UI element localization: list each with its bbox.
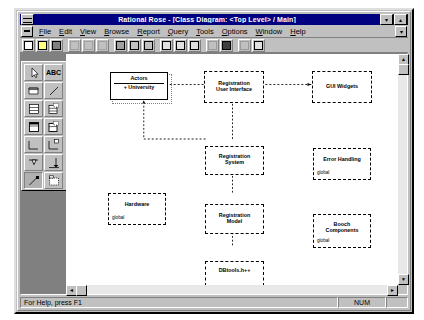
aggregation-diamond-icon	[27, 156, 42, 170]
zoom-in-button[interactable]	[206, 39, 219, 52]
undo-button[interactable]	[238, 39, 251, 52]
new-model-button[interactable]	[22, 39, 35, 52]
minimize-button[interactable]: ▾	[380, 14, 393, 25]
floppy-disk-icon	[52, 41, 61, 50]
minimize-icon: ▾	[381, 15, 392, 24]
menu-browse-label: rowse	[109, 27, 129, 36]
association-class-icon	[47, 138, 62, 152]
status-num-indicator: NUM	[338, 297, 386, 308]
text-tool[interactable]: ABC	[44, 64, 63, 81]
menu-query[interactable]: Query	[164, 27, 192, 37]
redo-button[interactable]	[252, 39, 265, 52]
menu-edit[interactable]: Edit	[55, 27, 76, 37]
toolbox-grid: ABC	[24, 64, 63, 189]
gui-widgets-package[interactable]: GUI Widgets	[312, 71, 372, 103]
application-window: Rational Rose - [Class Diagram: <Top Lev…	[14, 8, 414, 314]
fit-in-window-button[interactable]	[220, 39, 233, 52]
menu-query-label: uery	[174, 27, 189, 36]
save-model-button[interactable]	[50, 39, 63, 52]
horizontal-scrollbar[interactable]: ◄ ►	[66, 285, 398, 294]
mdi-system-menu-button[interactable]	[21, 26, 33, 37]
menu-help[interactable]: Help	[286, 27, 309, 37]
cut-button[interactable]	[68, 39, 81, 52]
fit-window-icon	[222, 41, 231, 50]
vscroll-thumb[interactable]	[398, 64, 409, 75]
scroll-right-button[interactable]: ►	[387, 285, 398, 296]
dbtools-package[interactable]: DBtools.h++	[205, 261, 264, 286]
connector-system-to-actors	[144, 100, 206, 139]
paste-button[interactable]	[96, 39, 109, 52]
class-tool[interactable]	[24, 100, 43, 117]
browse-button[interactable]	[142, 39, 155, 52]
title-bar: Rational Rose - [Class Diagram: <Top Lev…	[20, 14, 408, 25]
note-tool[interactable]	[24, 82, 43, 99]
menu-report[interactable]: Report	[133, 27, 164, 37]
association-tool[interactable]	[24, 136, 43, 153]
menu-window[interactable]: Window	[252, 27, 287, 37]
menu-browse[interactable]: Browse	[100, 27, 133, 37]
hardware-global: global	[112, 215, 124, 220]
use-case-diagram-icon	[176, 41, 185, 50]
state-diagram-button[interactable]	[188, 39, 201, 52]
scroll-down-button[interactable]: ▼	[398, 274, 409, 285]
open-model-button[interactable]	[36, 39, 49, 52]
vscroll-track[interactable]	[398, 63, 407, 276]
model-title-line2: Model	[206, 218, 263, 224]
registration-model-package[interactable]: Registration Model	[205, 204, 264, 234]
query-button[interactable]	[128, 39, 141, 52]
association-line-icon	[27, 138, 42, 152]
application-window-inner: Rational Rose - [Class Diagram: <Top Lev…	[17, 11, 411, 311]
anchor-line-icon	[47, 84, 62, 98]
menu-view-label: iew	[85, 27, 96, 36]
inheritance-tool[interactable]	[44, 154, 63, 171]
error-handling-package[interactable]: Error Handling global	[313, 148, 371, 180]
status-extra-indicator	[386, 297, 408, 308]
system-menu-button[interactable]	[21, 14, 34, 25]
diagram-canvas[interactable]: Actors + University Registration User In…	[66, 54, 398, 285]
copy-icon	[84, 41, 93, 50]
maximize-button[interactable]: ▴	[394, 14, 407, 25]
menu-options[interactable]: Options	[218, 27, 252, 37]
hscroll-track[interactable]	[75, 285, 389, 294]
hardware-package[interactable]: Hardware global	[108, 193, 166, 225]
package-tool[interactable]	[44, 172, 63, 189]
hscroll-thumb[interactable]	[76, 285, 87, 296]
error-handling-global: global	[317, 170, 329, 175]
booch-title-line2: Components	[314, 227, 370, 233]
hardware-title: Hardware	[109, 201, 165, 207]
diagram-toolbox: ABC	[21, 61, 67, 191]
browse-icon	[144, 41, 153, 50]
class-box-icon	[27, 102, 42, 116]
aggregation-tool[interactable]	[24, 154, 43, 171]
vertical-scrollbar[interactable]: ▲ ▼	[398, 54, 407, 285]
menu-view[interactable]: View	[76, 27, 100, 37]
menu-tools-label: ools	[200, 27, 214, 36]
undo-icon	[240, 41, 249, 50]
association-class-tool[interactable]	[44, 136, 63, 153]
menu-report-label: eport	[143, 27, 160, 36]
class-diagram-button[interactable]	[160, 39, 173, 52]
parameterized-class-icon	[47, 102, 62, 116]
menu-file[interactable]: File	[35, 27, 55, 37]
selection-tool[interactable]	[24, 64, 43, 81]
actor-class-box[interactable]: Actors + University	[110, 72, 168, 100]
class-utility-tool[interactable]	[24, 118, 43, 135]
arrow-cursor-icon	[27, 66, 42, 80]
copy-button[interactable]	[82, 39, 95, 52]
use-case-diagram-button[interactable]	[174, 39, 187, 52]
note-anchor-tool[interactable]	[44, 82, 63, 99]
dependency-tool[interactable]	[24, 172, 43, 189]
registration-system-package[interactable]: Registration System	[205, 146, 264, 175]
scissors-icon	[70, 41, 79, 50]
parameterized-class-tool[interactable]	[44, 100, 63, 117]
registration-user-interface-package[interactable]: Registration User Interface	[204, 71, 264, 103]
print-button[interactable]	[114, 39, 127, 52]
booch-components-package[interactable]: Booch Components global	[313, 214, 371, 248]
mdi-restore-icon: ▾	[396, 27, 406, 36]
booch-global: global	[317, 238, 329, 243]
menu-tools[interactable]: Tools	[192, 27, 218, 37]
gui-widgets-title: GUI Widgets	[313, 83, 371, 89]
class-diagram-icon	[162, 41, 171, 50]
parameterized-class-utility-tool[interactable]	[44, 118, 63, 135]
mdi-restore-button[interactable]: ▾	[395, 26, 407, 37]
